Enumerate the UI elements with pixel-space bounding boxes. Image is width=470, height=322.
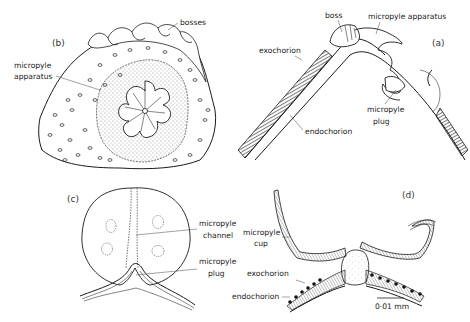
- label-bosses: bosses: [180, 18, 206, 27]
- endochorion-outer: [245, 39, 385, 158]
- panel-d-label: (d): [402, 190, 415, 200]
- exochorion-right: [436, 108, 468, 156]
- micropyle-plug-d: [341, 250, 368, 285]
- label-exochorion: exochorion: [259, 46, 301, 55]
- label-micropyle-cup-1: micropyle: [243, 228, 281, 237]
- exochorion-left: [238, 50, 332, 158]
- label-micropyle-plug-c-2: plug: [208, 269, 225, 278]
- label-micropyle-plug-2: plug: [373, 117, 390, 126]
- panel-c: (c) micropyle channel micropyle plug: [67, 188, 237, 310]
- panel-b: (b) bosses micropyle apparatus: [14, 18, 216, 169]
- leader-endochorion: [290, 115, 303, 130]
- panel-d: 0·01 mm (d) micropyle cup exochorion end…: [232, 190, 436, 312]
- label-micropyle-apparatus: micropyle apparatus: [368, 12, 446, 21]
- panel-c-label: (c): [67, 194, 79, 204]
- leader-exochorion-d: [296, 280, 305, 283]
- label-endochorion: endochorion: [305, 127, 352, 136]
- panel-a-label: (a): [432, 38, 445, 48]
- micropyle-cup-left-arm: [274, 190, 346, 261]
- micropyle-cup-outline: [82, 188, 190, 285]
- label-micropyle-plug-1: micropyle: [367, 105, 405, 114]
- label-apparatus: apparatus: [14, 72, 53, 81]
- scale-bar-label: 0·01 mm: [375, 302, 409, 311]
- label-boss: boss: [325, 11, 342, 20]
- leader-exochorion: [295, 56, 302, 60]
- endochorion-d: [287, 270, 345, 310]
- label-micropyle-channel-2: channel: [203, 231, 233, 240]
- micropyle-figure: (b) bosses micropyle apparatus (a) boss …: [0, 0, 470, 322]
- label-micropyle-cup-2: cup: [254, 239, 268, 248]
- leader-micropyle-apparatus-a: [376, 22, 380, 34]
- boss: [330, 25, 360, 47]
- panel-a: (a) boss micropyle apparatus exochorion …: [238, 11, 468, 160]
- label-micropyle: micropyle: [14, 61, 52, 70]
- micropyle-plug: [385, 76, 405, 92]
- label-endochorion-d: endochorion: [232, 292, 279, 301]
- panel-b-label: (b): [52, 38, 65, 48]
- endochorion-d-right: [366, 270, 424, 302]
- micropyle-cup-right-arm: [360, 220, 434, 259]
- label-micropyle-channel-1: micropyle: [199, 219, 237, 228]
- label-exochorion-d: exochorion: [247, 269, 289, 278]
- label-micropyle-plug-c-1: micropyle: [199, 257, 237, 266]
